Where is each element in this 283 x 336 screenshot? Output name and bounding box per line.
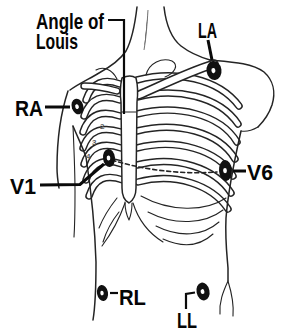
rib-number-3: 3 [92,138,97,147]
electrode-rl [96,284,110,302]
electrode-ll [195,281,211,301]
ribcage-right [137,76,239,209]
v1-label: V1 [10,174,36,199]
arm-inner-left [73,126,75,237]
armpit-right [241,127,258,131]
xiphoid-process [125,202,132,220]
la-label: LA [198,18,217,43]
rib-number-2: 2 [100,122,105,131]
hip-crease-right [220,281,233,316]
lower-ribs [99,196,226,246]
angle-of-louis-label-line2: Louis [36,29,78,54]
ecg-electrode-placement-figure: 2 3 4 [0,0,283,336]
ll-label: LL [177,308,197,333]
la-leader-line [208,40,212,60]
v6-label: V6 [247,160,273,185]
costal-margin-right [133,203,163,242]
ra-label: RA [15,96,43,121]
neck-center-line [144,10,148,50]
costal-margin-left [102,203,125,246]
rib-number-4: 4 [86,152,91,161]
torso-line-drawing: 2 3 4 [0,0,283,336]
rl-label: RL [119,285,146,310]
